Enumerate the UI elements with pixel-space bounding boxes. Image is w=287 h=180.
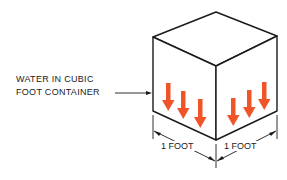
callout-leader [115, 91, 152, 95]
arrowhead-icon [269, 131, 276, 136]
diagram-canvas: WATER IN CUBIC FOOT CONTAINER 1 FOOT 1 F… [0, 0, 287, 180]
arrowhead-icon [208, 156, 215, 161]
callout-line-1: WATER IN CUBIC [16, 73, 100, 86]
right-dimension-label: 1 FOOT [223, 141, 258, 151]
arrowhead-icon [217, 156, 224, 161]
callout-label: WATER IN CUBIC FOOT CONTAINER [16, 73, 100, 99]
cube [153, 12, 277, 140]
callout-line-2: FOOT CONTAINER [16, 86, 100, 99]
arrowhead-icon [146, 91, 152, 95]
left-dimension-label: 1 FOOT [160, 141, 195, 151]
arrowhead-icon [154, 131, 161, 136]
